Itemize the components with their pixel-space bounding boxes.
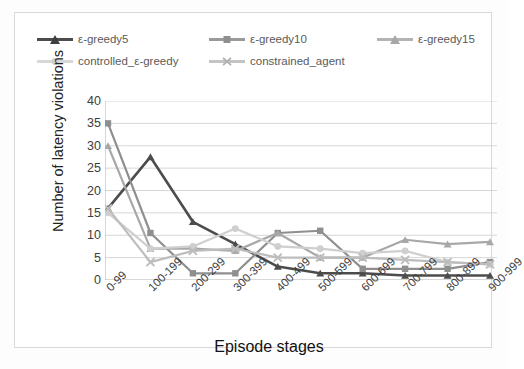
series-line <box>108 208 490 264</box>
data-point-square <box>402 266 408 272</box>
triangle-icon <box>390 35 400 44</box>
chart-legend: ε-greedy5 ε-greedy10 ε-gre <box>37 33 505 77</box>
legend-label-controlled-eps-greedy: controlled_ε-greedy <box>78 55 178 67</box>
y-tick-label: 20 <box>87 185 101 197</box>
data-point-triangle <box>146 153 154 160</box>
data-point-square <box>190 270 196 276</box>
y-tick-label: 30 <box>87 140 101 152</box>
data-point-square <box>317 228 323 234</box>
legend-label-constrained-agent: constrained_agent <box>250 55 345 67</box>
chart-container: ε-greedy5 ε-greedy10 ε-gre <box>14 12 492 348</box>
y-axis-tick-labels: 4035302520151050 <box>67 93 101 288</box>
data-point-square <box>359 266 365 272</box>
legend-marker-eps-greedy15 <box>377 33 413 45</box>
data-point-circle <box>402 248 409 255</box>
data-point-circle <box>147 245 154 252</box>
data-point-circle <box>232 225 239 232</box>
legend-label-eps-greedy15: ε-greedy15 <box>418 33 475 45</box>
chart-svg <box>105 101 497 280</box>
data-point-square <box>105 120 111 126</box>
legend-label-eps-greedy10: ε-greedy10 <box>250 33 307 45</box>
legend-item-constrained-agent: constrained_agent <box>209 55 345 67</box>
legend-item-eps-greedy10: ε-greedy10 <box>209 33 307 45</box>
y-tick-label: 40 <box>87 95 101 107</box>
plot-area <box>105 101 497 280</box>
data-point-circle <box>317 245 324 252</box>
series-3 <box>105 142 494 261</box>
y-axis-title: Number of latency violations <box>50 36 66 246</box>
square-icon <box>222 35 232 44</box>
y-tick-label: 35 <box>87 117 101 129</box>
x-axis-title: Episode stages <box>15 338 523 356</box>
data-point-square <box>232 270 238 276</box>
x-axis-tick-labels: 0-99100-199200-299300-399400-499500-5996… <box>75 281 515 336</box>
data-point-square <box>147 230 153 236</box>
y-tick-label: 10 <box>87 229 101 241</box>
y-tick-label: 25 <box>87 162 101 174</box>
legend-item-eps-greedy15: ε-greedy15 <box>377 33 475 45</box>
series-2 <box>105 120 493 276</box>
legend-marker-eps-greedy10 <box>209 33 245 45</box>
data-point-square <box>444 266 450 272</box>
y-tick-label: 5 <box>94 252 101 264</box>
legend-marker-constrained-agent <box>209 55 245 67</box>
series-line <box>108 146 490 258</box>
y-tick-label: 15 <box>87 207 101 219</box>
cross-icon <box>222 57 232 66</box>
data-point-circle <box>274 243 281 250</box>
legend-label-eps-greedy5: ε-greedy5 <box>78 33 129 45</box>
